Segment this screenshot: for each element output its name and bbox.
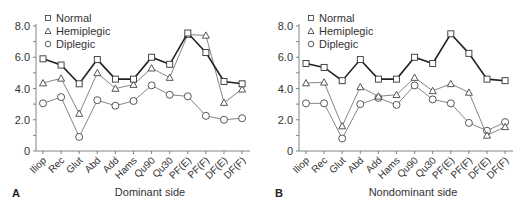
square-marker (221, 78, 227, 84)
circle-marker (339, 135, 346, 142)
square-marker (339, 78, 345, 84)
square-marker (412, 54, 418, 60)
circle-marker (239, 115, 246, 122)
legend-label: Hemiplegic (319, 25, 374, 37)
circle-marker (76, 133, 83, 140)
x-tick-label: Abd (345, 155, 365, 175)
y-tick-label: 6.0 (15, 51, 30, 63)
x-tick-label: Rec (309, 155, 329, 175)
circle-marker (184, 93, 191, 100)
legend-label: Normal (319, 12, 354, 24)
y-tick-label: 4.0 (278, 83, 293, 95)
circle-marker (221, 116, 228, 123)
series-hemiplegic (303, 74, 509, 138)
x-tick-label: Glut (327, 154, 348, 175)
legend-circle-icon (308, 41, 314, 47)
triangle-marker (94, 69, 101, 75)
square-marker (149, 54, 155, 60)
x-tick-label: Iliop (291, 154, 312, 175)
triangle-marker (411, 74, 418, 80)
circle-marker (58, 94, 65, 101)
circle-marker (393, 101, 400, 108)
chart-nondominant-side: 02.04.06.08.0IliopRecGlutAbdAddHamsQu90Q… (263, 0, 526, 210)
legend-label: Diplegic (56, 38, 96, 50)
square-marker (502, 78, 508, 84)
triangle-marker (76, 110, 83, 116)
circle-marker (321, 100, 328, 107)
y-tick-label: 2.0 (15, 114, 30, 126)
square-marker (484, 76, 490, 82)
y-tick-label: 8.0 (15, 20, 30, 32)
y-tick-label: 6.0 (278, 51, 293, 63)
triangle-marker (221, 99, 228, 105)
series-diplegic (40, 82, 246, 141)
triangle-marker (339, 123, 346, 129)
square-marker (131, 76, 137, 82)
legend: NormalHemiplegicDiplegic (45, 12, 111, 50)
circle-marker (112, 102, 119, 109)
triangle-marker (465, 89, 472, 95)
legend-label: Hemiplegic (56, 25, 111, 37)
legend: NormalHemiplegicDiplegic (308, 12, 374, 50)
legend-triangle-icon (308, 28, 314, 34)
circle-marker (40, 100, 47, 107)
triangle-marker (447, 80, 454, 86)
square-marker (185, 30, 191, 36)
square-marker (357, 57, 363, 63)
square-marker (448, 31, 454, 37)
circle-marker (447, 100, 454, 107)
square-marker (203, 50, 209, 56)
panel-b: 02.04.06.08.0IliopRecGlutAbdAddHamsQu90Q… (263, 0, 526, 210)
square-marker (112, 76, 118, 82)
circle-marker (148, 82, 155, 89)
panel-letter: B (275, 187, 283, 199)
square-marker (76, 81, 82, 87)
x-tick-label: Rec (46, 155, 66, 175)
legend-square-icon (309, 16, 314, 21)
triangle-marker (429, 87, 436, 93)
y-tick-label: 2.0 (278, 114, 293, 126)
square-marker (394, 76, 400, 82)
circle-marker (357, 101, 364, 108)
legend-triangle-icon (45, 28, 51, 34)
chart-dominant-side: 02.04.06.08.0IliopRecGlutAbdAddHamsQu90Q… (0, 0, 263, 210)
square-marker (430, 61, 436, 67)
circle-marker (130, 98, 137, 105)
y-tick-label: 0 (24, 145, 30, 157)
x-tick-label: Glut (64, 154, 85, 175)
square-marker (94, 57, 100, 63)
circle-marker (411, 82, 418, 89)
x-tick-label: Iliop (28, 154, 49, 175)
circle-marker (465, 119, 472, 126)
y-tick-label: 8.0 (278, 20, 293, 32)
triangle-marker (357, 83, 364, 89)
circle-marker (202, 112, 209, 119)
x-axis-title: Dominant side (80, 186, 220, 198)
legend-label: Normal (56, 12, 91, 24)
square-marker (40, 56, 46, 62)
panel-a: 02.04.06.08.0IliopRecGlutAbdAddHamsQu90Q… (0, 0, 263, 210)
y-tick-label: 4.0 (15, 83, 30, 95)
square-marker (303, 61, 309, 67)
square-marker (466, 50, 472, 56)
square-marker (58, 62, 64, 68)
triangle-marker (321, 79, 328, 85)
legend-label: Diplegic (319, 38, 359, 50)
circle-marker (94, 97, 101, 104)
panel-letter: A (12, 187, 20, 199)
triangle-marker (166, 74, 173, 80)
y-tick-label: 0 (287, 145, 293, 157)
square-marker (167, 61, 173, 67)
square-marker (321, 64, 327, 70)
legend-circle-icon (45, 41, 51, 47)
legend-square-icon (46, 16, 51, 21)
circle-marker (166, 91, 173, 98)
x-tick-label: Abd (82, 155, 102, 175)
series-diplegic (303, 82, 509, 142)
circle-marker (303, 100, 310, 107)
square-marker (239, 81, 245, 87)
square-marker (375, 76, 381, 82)
triangle-marker (58, 75, 65, 81)
circle-marker (429, 96, 436, 103)
triangle-marker (148, 65, 155, 71)
